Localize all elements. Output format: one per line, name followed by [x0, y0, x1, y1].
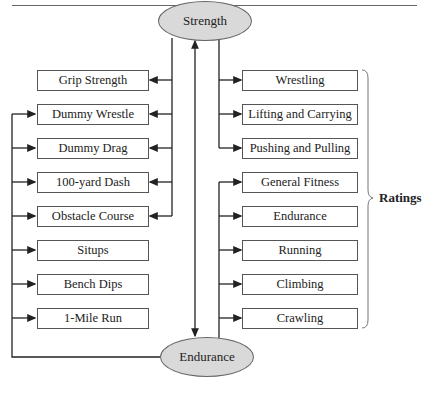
test-box-situps: Situps — [37, 240, 149, 261]
test-box-obstacle-course: Obstacle Course — [37, 206, 149, 227]
rating-box-general-fitness: General Fitness — [242, 172, 358, 193]
ratings-label: Ratings — [379, 190, 422, 206]
rating-box-lifting-carrying: Lifting and Carrying — [242, 104, 358, 125]
strength-endurance-diagram: Strength Endurance Grip Strength Dummy W… — [0, 0, 434, 395]
endurance-node: Endurance — [160, 337, 254, 377]
test-box-dummy-wrestle: Dummy Wrestle — [37, 104, 149, 125]
rating-box-crawling: Crawling — [242, 308, 358, 329]
connector-lines — [0, 0, 434, 395]
rating-box-endurance: Endurance — [242, 206, 358, 227]
test-box-dummy-drag: Dummy Drag — [37, 138, 149, 159]
rating-box-climbing: Climbing — [242, 274, 358, 295]
test-box-1-mile-run: 1-Mile Run — [37, 308, 149, 329]
test-box-bench-dips: Bench Dips — [37, 274, 149, 295]
rating-box-pushing-pulling: Pushing and Pulling — [242, 138, 358, 159]
rating-box-wrestling: Wrestling — [242, 70, 358, 91]
ratings-brace — [362, 70, 373, 328]
test-box-grip-strength: Grip Strength — [37, 70, 149, 91]
strength-node: Strength — [158, 1, 252, 41]
test-box-100-yard-dash: 100-yard Dash — [37, 172, 149, 193]
rating-box-running: Running — [242, 240, 358, 261]
